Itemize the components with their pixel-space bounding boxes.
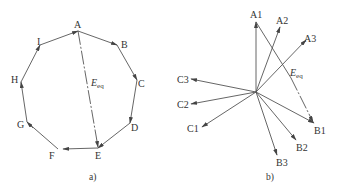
panel-b: A1 A2 A3 B1 B2 B3 C1 C2 C3 Eeq b) [177, 9, 326, 183]
resultant-eq-b-solid [256, 22, 291, 78]
phasor-label-b2: B2 [296, 142, 308, 153]
phasor-label-b1: B1 [314, 125, 326, 136]
phasor-a2 [256, 27, 280, 92]
panel-a: A B C D E F G H I Eeq a) [11, 19, 145, 183]
phasor-b-c [117, 45, 137, 80]
caption-b: b) [266, 172, 274, 183]
vertex-label-c: C [138, 78, 145, 89]
phasor-label-a2: A2 [276, 15, 288, 26]
vertex-label-f: F [49, 150, 55, 161]
phasor-label-c1: C1 [187, 123, 199, 134]
vertex-label-a: A [74, 19, 82, 30]
phasor-a-b [78, 31, 117, 45]
vertex-label-b: B [121, 39, 128, 50]
resultant-eq-b [291, 78, 313, 122]
resultant-eq-a [78, 31, 98, 147]
vertex-label-d: D [131, 122, 138, 133]
phasor-diagram-figure: A B C D E F G H I Eeq a) A1 A2 A3 B1 B2 … [0, 0, 337, 191]
phasor-label-b3: B3 [276, 157, 288, 168]
phasor-c-d [130, 80, 137, 123]
resultant-label-a: Eeq [90, 77, 104, 90]
vertex-label-g: G [17, 119, 24, 130]
caption-a: a) [89, 172, 96, 183]
phasor-e-f [63, 148, 98, 149]
vertex-label-h: H [11, 74, 18, 85]
phasor-label-c2: C2 [177, 99, 189, 110]
vertex-label-e: E [95, 150, 101, 161]
phasor-label-a1: A1 [250, 9, 262, 20]
phasor-h-i [21, 45, 40, 82]
phasor-label-c3: C3 [177, 74, 189, 85]
phasor-g-h [21, 82, 27, 122]
phasor-label-a3: A3 [304, 33, 316, 44]
vertex-label-i: I [37, 36, 40, 47]
phasor-c3 [191, 79, 256, 92]
phasor-a3 [256, 40, 306, 92]
arrow-g [27, 122, 33, 128]
phasor-d-e [98, 123, 130, 148]
phasor-i-a [40, 31, 78, 45]
phasor-b2 [256, 92, 296, 140]
